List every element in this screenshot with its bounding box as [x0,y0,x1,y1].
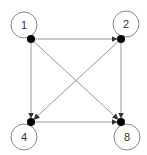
node-label-4: 4 [21,131,27,143]
edge-2-to-4 [34,39,121,119]
edges [31,39,121,122]
node-point-8 [117,118,125,126]
node-point-4 [27,118,35,126]
edge-1-to-8 [31,39,118,119]
graph-diagram: 1248 [0,0,147,155]
node-label-1: 1 [21,19,27,31]
graph-canvas: 1248 [0,0,147,155]
node-point-2 [117,35,125,43]
node-label-2: 2 [123,18,129,30]
node-label-8: 8 [124,131,130,143]
node-point-1 [27,35,35,43]
